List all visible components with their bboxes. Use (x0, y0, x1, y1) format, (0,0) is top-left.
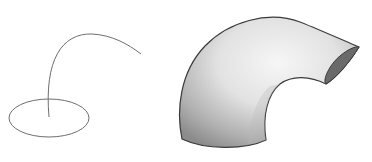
profile-and-path (9, 34, 141, 137)
tube-body (180, 17, 359, 147)
profile-ellipse (9, 99, 89, 137)
sweep-path-curve (48, 34, 141, 117)
sweep-diagram (0, 0, 372, 162)
swept-tube (180, 17, 359, 147)
